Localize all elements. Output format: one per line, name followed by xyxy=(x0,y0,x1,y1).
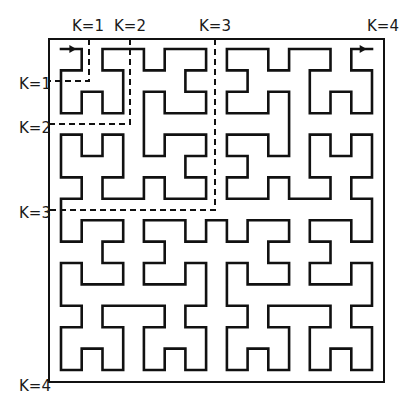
top-label-k3: K=3 xyxy=(199,17,231,35)
top-label-k4: K=4 xyxy=(367,17,399,35)
left-label-k3: K=3 xyxy=(19,204,51,222)
end-arrow-icon xyxy=(360,45,367,53)
left-label-k2: K=2 xyxy=(19,119,51,137)
subdivision-dashes xyxy=(49,39,215,210)
top-label-k1: K=1 xyxy=(72,17,104,35)
left-label-k4: K=4 xyxy=(19,377,51,395)
outer-frame xyxy=(49,39,384,382)
hilbert-curve-path xyxy=(61,49,372,370)
left-label-k1: K=1 xyxy=(19,75,51,93)
hilbert-curve-diagram: K=1 K=2 K=3 K=4 K=1 K=2 K=3 K=4 xyxy=(0,0,413,415)
top-label-k2: K=2 xyxy=(114,17,146,35)
start-arrow-icon xyxy=(69,45,76,53)
